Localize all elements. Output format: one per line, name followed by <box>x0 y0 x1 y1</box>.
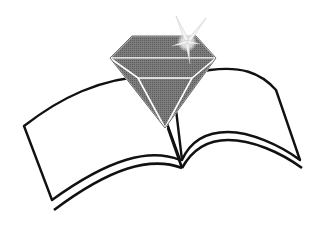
logo: Diamond gem above an open book <box>0 0 332 229</box>
